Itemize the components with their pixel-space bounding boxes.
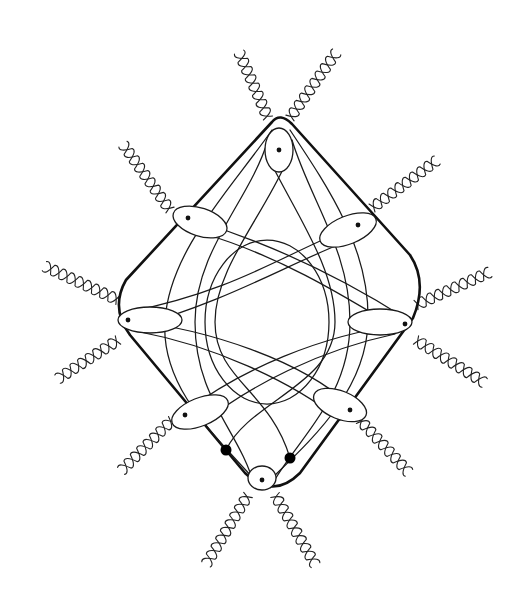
- braid-right-upper: [414, 267, 492, 309]
- cord-strand: [165, 130, 272, 488]
- braid-strand: [124, 141, 171, 213]
- terminal-dot: [285, 453, 296, 464]
- braid-strand: [42, 265, 120, 302]
- loop-left: [118, 307, 182, 333]
- loop-lower-left: [167, 388, 233, 436]
- pin-dot: [277, 148, 282, 153]
- braid-strand: [360, 417, 413, 470]
- loop-outline: [169, 200, 231, 244]
- terminal-dot: [221, 445, 232, 456]
- braid-strand: [55, 336, 117, 379]
- braid-strand: [124, 420, 176, 474]
- braid-strand: [414, 271, 492, 307]
- braid-strand: [369, 161, 440, 208]
- braid-bottom-left: [202, 492, 253, 567]
- braid-left-lower: [55, 336, 121, 384]
- braid-bottom-right: [271, 493, 320, 568]
- braid-upper-right: [369, 156, 440, 212]
- inner-ring: [205, 240, 329, 404]
- braid-strand: [202, 497, 253, 562]
- pin-dot: [260, 478, 265, 483]
- braid-strand: [119, 147, 174, 209]
- loop-upper-left: [169, 200, 231, 244]
- braid-lower-left: [118, 417, 176, 475]
- terminal-dots: [221, 445, 296, 464]
- braid-strand: [118, 417, 172, 469]
- braid-strand: [238, 50, 273, 116]
- string-figure-svg: [0, 0, 519, 601]
- loop-top: [265, 128, 293, 172]
- cord-strand: [262, 130, 368, 488]
- braid-strand: [289, 49, 335, 121]
- braid-strand: [418, 336, 482, 387]
- braid-strand: [60, 339, 120, 383]
- cord-strand: [215, 165, 290, 458]
- braid-strand: [234, 54, 270, 120]
- braid-lower-right: [356, 417, 412, 477]
- braid-strand: [273, 493, 315, 568]
- loop-outline: [348, 309, 412, 335]
- braid-right-lower: [413, 336, 487, 387]
- pin-dot: [183, 413, 188, 418]
- braid-strand: [373, 156, 434, 212]
- pin-dot: [126, 318, 131, 323]
- pin-dot: [186, 216, 191, 221]
- braid-strand: [413, 339, 487, 383]
- string-figure-diagram: [0, 0, 519, 601]
- loop-bottom: [248, 466, 276, 490]
- loop-outline: [167, 388, 233, 436]
- braid-upper-left: [119, 141, 174, 213]
- braid-strand: [418, 267, 488, 309]
- pin-dot: [356, 223, 361, 228]
- pin-dot: [348, 408, 353, 413]
- pin-dot: [403, 322, 408, 327]
- braid-top-right: [286, 49, 341, 121]
- braid-strand: [47, 262, 117, 305]
- braid-strand: [206, 492, 249, 567]
- braid-top-left: [234, 50, 272, 120]
- braid-left-upper: [42, 262, 120, 305]
- braid-strand: [286, 55, 341, 117]
- string-cords: [128, 130, 405, 488]
- braid-strand: [271, 497, 320, 563]
- loop-right: [348, 309, 412, 335]
